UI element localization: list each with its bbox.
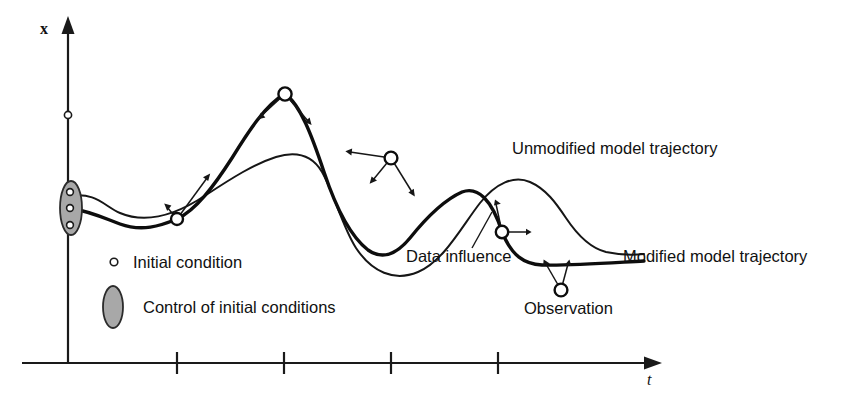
observation-point-2	[278, 87, 291, 100]
influence-arrow-5b-head	[565, 259, 572, 266]
control-of-initial-conditions-region	[60, 181, 82, 235]
modified-trajectory-group	[70, 94, 644, 265]
t-axis-label: t	[647, 372, 651, 388]
y-axis-label: x	[40, 21, 48, 37]
callout-unmodified-model-trajectory: Unmodified model trajectory	[512, 140, 717, 157]
y-axis-initial-condition-marker	[64, 111, 71, 118]
influence-arrow-3a-head	[345, 149, 352, 156]
y-axis-arrowhead	[62, 16, 75, 34]
legend-label-control-of-initial-conditions: Control of initial conditions	[143, 299, 336, 316]
initial-condition-point-2	[67, 205, 74, 212]
observation-point-5	[555, 284, 568, 297]
legend-initial-condition-marker	[110, 258, 118, 266]
observation-point-1	[171, 213, 183, 225]
data-influence-leader	[472, 212, 492, 248]
initial-condition-point-3	[67, 222, 74, 229]
influence-arrow-4b-head	[526, 229, 532, 235]
influence-arrow-4a-head	[494, 199, 501, 205]
influence-arrow-1b-head	[203, 174, 210, 181]
callout-leaders	[472, 212, 492, 248]
figure-canvas: x t Unmodified model trajectory Modified…	[0, 0, 842, 412]
callout-observation: Observation	[524, 300, 613, 317]
legend-control-ellipse-marker	[103, 286, 123, 328]
callout-modified-model-trajectory: Modified model trajectory	[623, 248, 807, 265]
observation-point-3	[385, 152, 398, 165]
trajectory-diagram	[0, 0, 842, 412]
modified-model-trajectory-path	[70, 94, 644, 265]
legend-markers	[103, 258, 123, 328]
initial-condition-point-1	[67, 189, 74, 196]
influence-arrow-3b-head	[370, 177, 377, 184]
t-axis-arrowhead	[644, 357, 662, 370]
legend-label-initial-condition: Initial condition	[133, 254, 242, 271]
observation-point-4	[496, 226, 508, 238]
callout-data-influence: Data influence	[406, 248, 512, 265]
